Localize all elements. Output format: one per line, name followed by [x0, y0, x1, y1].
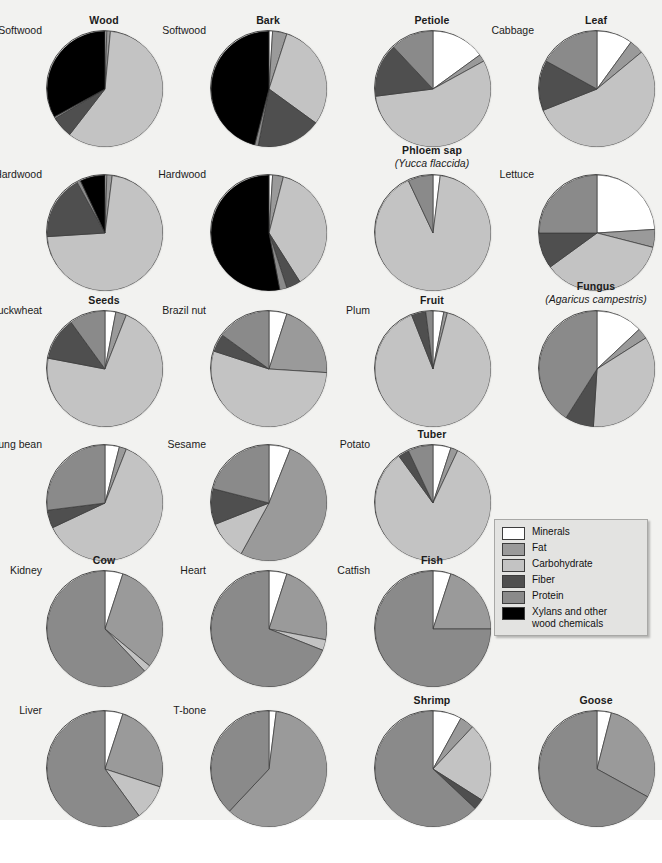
- legend-swatch: [502, 607, 525, 620]
- figure-canvas: WoodSoftwoodBarkSoftwoodPetioleLeafCabba…: [0, 0, 662, 820]
- pie-item-label: T-bone: [92, 704, 206, 716]
- pie-item-label: Hardwood: [92, 168, 206, 180]
- pie-item-label: Hardwood: [0, 168, 42, 180]
- pie-chart: [374, 30, 490, 146]
- pie-chart: [374, 710, 490, 826]
- pie-item-label: Softwood: [92, 24, 206, 36]
- pie-chart: [210, 30, 326, 146]
- legend-swatch: [502, 543, 525, 556]
- pie-chart: [538, 710, 654, 826]
- pie-chart: [374, 310, 490, 426]
- legend-swatch: [502, 575, 525, 588]
- pie-item-label: Cabbage: [420, 24, 534, 36]
- pie-item-label: Plum: [256, 304, 370, 316]
- legend-label: Fat: [532, 542, 546, 554]
- pie-chart: [210, 570, 326, 686]
- pie-chart: [374, 174, 490, 290]
- pie-item-label: Sesame: [92, 438, 206, 450]
- group-title: Goose: [506, 694, 662, 706]
- group-title: Shrimp: [342, 694, 522, 706]
- pie-slice: [597, 175, 655, 233]
- pie-chart: [210, 310, 326, 426]
- chart-legend: MineralsFatCarbohydrateFiberProteinXylan…: [494, 519, 648, 636]
- pie-item-label: Heart: [92, 564, 206, 576]
- pie-chart: [538, 310, 654, 426]
- legend-label: Carbohydrate: [532, 558, 593, 570]
- legend-row: Fiber: [502, 574, 639, 588]
- pie-chart: [210, 710, 326, 826]
- pie-item-label: Brazil nut: [92, 304, 206, 316]
- pie-chart: [46, 174, 162, 290]
- legend-row: Protein: [502, 590, 639, 604]
- legend-label: Protein: [532, 590, 564, 602]
- legend-label: Minerals: [532, 526, 570, 538]
- legend-row: Fat: [502, 542, 639, 556]
- pie-slice: [47, 445, 105, 510]
- pie-item-label: Mung bean: [0, 438, 42, 450]
- legend-swatch: [502, 559, 525, 572]
- pie-item-label: Lettuce: [420, 168, 534, 180]
- pie-item-label: Softwood: [0, 24, 42, 36]
- pie-item-label: Kidney: [0, 564, 42, 576]
- pie-chart: [538, 30, 654, 146]
- pie-item-label: Potato: [256, 438, 370, 450]
- pie-chart: [46, 710, 162, 826]
- legend-swatch: [502, 527, 525, 540]
- pie-chart: [46, 444, 162, 560]
- legend-swatch: [502, 591, 525, 604]
- pie-chart: [374, 570, 490, 686]
- pie-chart: [210, 174, 326, 290]
- pie-chart: [46, 30, 162, 146]
- pie-chart: [538, 174, 654, 290]
- pie-item-label: Catfish: [256, 564, 370, 576]
- group-subtitle: (Agaricus campestris): [506, 293, 662, 305]
- pie-chart: [46, 310, 162, 426]
- pie-item-label: Liver: [0, 704, 42, 716]
- legend-row: Carbohydrate: [502, 558, 639, 572]
- group-title: Phloem sap: [342, 144, 522, 156]
- pie-chart: [46, 570, 162, 686]
- legend-row: Xylans and other wood chemicals: [502, 606, 639, 629]
- legend-row: Minerals: [502, 526, 639, 540]
- pie-chart: [210, 444, 326, 560]
- pie-chart: [374, 444, 490, 560]
- pie-slice: [539, 175, 597, 233]
- legend-label: Fiber: [532, 574, 555, 586]
- pie-item-label: Buckwheat: [0, 304, 42, 316]
- legend-label: Xylans and other wood chemicals: [532, 606, 607, 629]
- group-title: Fungus: [506, 280, 662, 292]
